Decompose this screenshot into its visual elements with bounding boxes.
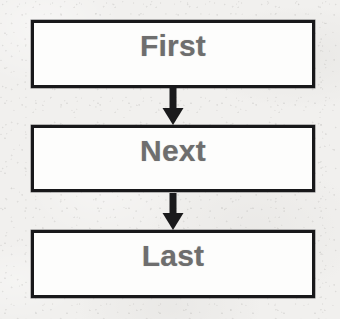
flowchart-connector-first-next bbox=[160, 88, 186, 125]
flowchart-connector-next-last bbox=[160, 193, 186, 230]
flowchart-node-next-label: Next bbox=[34, 135, 312, 167]
arrow-down-icon bbox=[160, 88, 186, 125]
flowchart-page: First Next Last bbox=[0, 0, 340, 319]
flowchart-node-first-label: First bbox=[34, 30, 312, 62]
flowchart-node-next[interactable]: Next bbox=[31, 125, 315, 192]
flowchart-canvas: First Next Last bbox=[0, 0, 340, 319]
flowchart-node-first[interactable]: First bbox=[31, 20, 315, 88]
flowchart-node-last-label: Last bbox=[34, 240, 312, 272]
flowchart-node-last[interactable]: Last bbox=[31, 230, 315, 298]
arrow-down-icon bbox=[160, 193, 186, 230]
